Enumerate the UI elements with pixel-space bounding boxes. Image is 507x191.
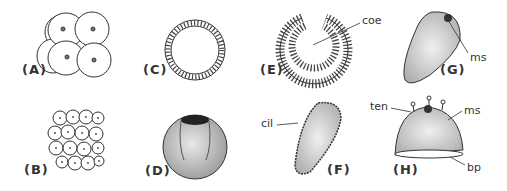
panel-label-d: (D) [145, 163, 171, 178]
annotation-ms-g: ms [470, 51, 486, 64]
annotation-ms-h: ms [464, 104, 480, 117]
diagram-canvas [0, 0, 507, 191]
panel-d-gastrula-icon [163, 115, 227, 179]
annotation-ten: ten [370, 100, 388, 113]
panel-label-b: (B) [24, 162, 49, 177]
panel-label-a: (A) [22, 62, 47, 77]
panel-e-gastrula-section-icon [280, 18, 360, 84]
panel-label-e: (E) [260, 62, 284, 77]
panel-a-four-cell-icon [37, 12, 111, 77]
annotation-bp: bp [467, 161, 481, 174]
annotation-cil: cil [261, 117, 273, 130]
panel-h-polyp-icon [391, 96, 465, 165]
annotation-coe: coe [362, 14, 382, 27]
panel-c-blastula-icon [165, 20, 225, 80]
panel-label-h: (H) [393, 162, 419, 177]
panel-label-g: (G) [440, 62, 466, 77]
panel-label-c: (C) [143, 62, 167, 77]
panel-b-morula-icon [48, 110, 104, 170]
panel-label-f: (F) [327, 162, 351, 177]
